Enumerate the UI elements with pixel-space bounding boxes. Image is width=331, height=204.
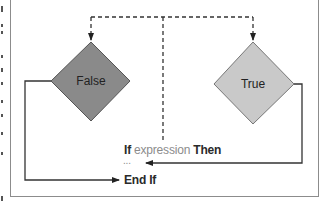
- false-label: False: [76, 74, 105, 88]
- flowchart-canvas: [0, 0, 331, 204]
- end-if-keyword: End If: [124, 173, 156, 187]
- then-keyword: Then: [193, 143, 221, 157]
- expression-text: expression: [134, 143, 190, 157]
- if-expression-then-line: If expression Then: [124, 143, 221, 157]
- ellipsis-text: ...: [123, 155, 131, 166]
- true-label: True: [241, 77, 265, 91]
